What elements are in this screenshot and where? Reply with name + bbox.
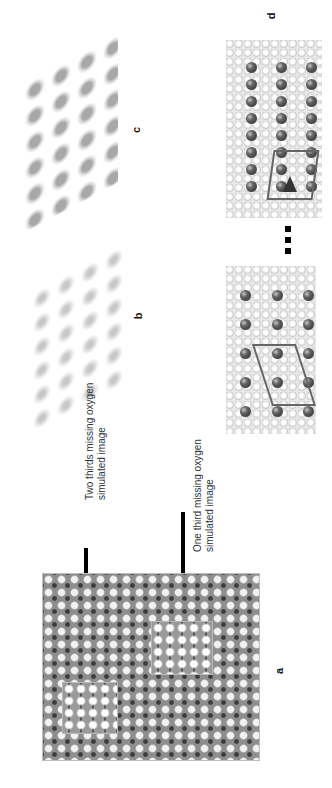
atom-icon [246,96,257,107]
panel-b-density-map [30,244,122,433]
atom-icon [240,290,251,301]
atom-icon [276,62,287,73]
dotted-separator [285,226,291,254]
atom-icon [246,147,257,158]
unit-cell-outline-top [266,150,319,200]
panel-c-density-map [22,32,118,233]
atom-icon [306,62,317,73]
atom-icon [306,79,317,90]
panel-label-c: c [133,124,139,136]
atom-icon [240,319,251,330]
atom-icon [246,130,257,141]
defect-region-one-third [151,621,213,675]
atom-icon [240,406,251,417]
caption-two-thirds: Two thirds missing oxygen simulated imag… [84,383,108,500]
atom-icon [240,348,251,359]
atom-icon [303,348,314,359]
atom-icon [303,290,314,301]
panel-label-a: a [276,665,282,677]
atom-icon [276,79,287,90]
defect-region-two-thirds [62,682,118,734]
atom-icon [246,113,257,124]
atom-icon [306,130,317,141]
panel-label-b: b [135,310,142,322]
atom-icon [272,319,283,330]
atom-icon [272,290,283,301]
ti-atom-column [240,290,251,417]
atom-icon [306,113,317,124]
atom-icon [272,406,283,417]
atom-icon [246,79,257,90]
atom-icon [276,113,287,124]
panel-label-d: d [268,10,275,22]
atom-icon [303,406,314,417]
triangle-marker-icon [283,176,297,192]
caption-one-third: One third missing oxygen simulated image [192,439,216,552]
atom-icon [246,181,257,192]
atom-icon [303,319,314,330]
atom-icon [240,377,251,388]
ti-atom-column [246,62,257,192]
atom-icon [246,62,257,73]
atom-icon [246,164,257,175]
atom-icon [276,130,287,141]
atom-icon [276,96,287,107]
atom-icon [306,96,317,107]
